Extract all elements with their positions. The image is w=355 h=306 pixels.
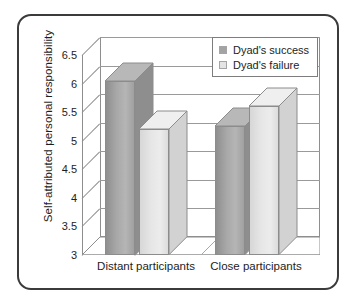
- x-axis-tick-label: Close participants: [186, 260, 326, 272]
- y-axis-tick-label: 5.5: [62, 106, 77, 118]
- y-axis-tick-label: 4: [71, 192, 77, 204]
- bar-failure: [139, 129, 169, 255]
- tick-connector: [82, 209, 101, 228]
- bar-3d-faces: [249, 88, 297, 255]
- chart-figure: Self-attributed personal responsibility …: [17, 14, 339, 290]
- chart-legend[interactable]: Dyad's successDyad's failure: [212, 37, 318, 77]
- tick-connector: [82, 66, 101, 85]
- bar-failure: [249, 106, 279, 255]
- y-axis-tick-label: 4.5: [62, 163, 77, 175]
- y-axis-tick-label: 3.5: [62, 220, 77, 232]
- y-axis-tick-label: 6: [71, 78, 77, 90]
- bar-success: [215, 126, 245, 255]
- legend-swatch-icon: [219, 61, 227, 69]
- legend-label: Dyad's success: [233, 44, 309, 56]
- tick-connector: [82, 94, 101, 113]
- legend-swatch-icon: [219, 46, 227, 54]
- legend-label: Dyad's failure: [233, 59, 299, 71]
- y-axis-line: [82, 55, 83, 255]
- tick-connector: [82, 37, 101, 56]
- y-axis-tick-label: 6.5: [62, 49, 77, 61]
- y-axis-tick-label: 5: [71, 135, 77, 147]
- tick-connector: [82, 151, 101, 170]
- tick-connector: [82, 180, 101, 199]
- legend-item[interactable]: Dyad's failure: [219, 57, 309, 72]
- tick-connector: [82, 123, 101, 142]
- bar-success: [105, 81, 135, 255]
- legend-item[interactable]: Dyad's success: [219, 42, 309, 57]
- y-axis-tick-group: 6.565.554.543.53: [39, 37, 77, 257]
- bar-3d-faces: [139, 111, 187, 255]
